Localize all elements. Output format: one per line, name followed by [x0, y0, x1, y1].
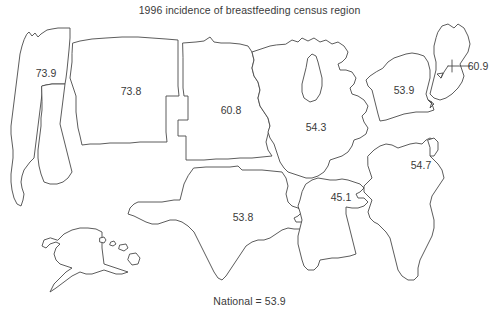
national-average-label: National = 53.9	[0, 295, 499, 307]
region-value-east-south-central: 45.1	[331, 191, 352, 203]
region-value-mountain: 73.8	[121, 85, 142, 97]
region-value-east-north-central: 54.3	[306, 121, 327, 133]
inset-shape-hawaii-island-2[interactable]	[110, 241, 116, 246]
us-census-region-map-svg: 73.9 73.8 60.8 54.3 53.9 60.9 54.7 45.1 …	[0, 16, 499, 294]
region-value-pacific: 73.9	[36, 67, 57, 79]
inset-shape-hawaii-island-4[interactable]	[128, 253, 140, 265]
region-value-west-north-central: 60.8	[221, 104, 242, 116]
inset-shape-hawaii-island-1[interactable]	[100, 237, 106, 243]
region-shape-south-atlantic[interactable]	[364, 138, 444, 280]
region-shape-new-england[interactable]	[430, 24, 470, 100]
region-value-middle-atlantic: 53.9	[394, 84, 415, 96]
region-shape-west-south-central[interactable]	[128, 166, 304, 280]
inset-shape-hawaii-island-3[interactable]	[119, 244, 128, 251]
region-value-new-england: 60.9	[468, 60, 489, 72]
region-value-south-atlantic: 54.7	[411, 159, 432, 171]
chart-title: 1996 incidence of breastfeeding census r…	[0, 4, 499, 16]
region-shape-pacific-inland[interactable]	[38, 84, 72, 184]
inset-shape-alaska[interactable]	[42, 228, 128, 292]
breastfeeding-census-region-map: 1996 incidence of breastfeeding census r…	[0, 0, 499, 320]
region-value-west-south-central: 53.8	[233, 211, 254, 223]
